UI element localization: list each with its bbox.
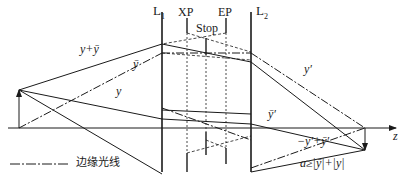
- ray-label-neg-yprime-plus-ybarprime: −y′+ȳ′: [297, 135, 329, 147]
- ray-label-y-prime: y′: [304, 63, 312, 75]
- lens-2-label-sub: 2: [264, 12, 268, 21]
- legend-label: 边缘光线: [76, 157, 120, 168]
- lens-2-label: L2: [256, 4, 268, 21]
- ray-label-y: y: [116, 85, 121, 97]
- lens-1-label-sub: 1: [161, 12, 165, 21]
- stop-label: Stop: [196, 22, 218, 34]
- axis-label-z: z: [393, 130, 398, 142]
- pupil-construction-ray: [187, 33, 251, 52]
- formula-label: a≥|ȳ|+|y|: [300, 157, 345, 169]
- lens-2-label-main: L: [256, 3, 264, 18]
- pupil-construction-ray: [187, 136, 251, 153]
- lens-1-label-main: L: [153, 3, 161, 18]
- ray-ybar: [19, 53, 162, 128]
- ray-label-ybar: ȳ: [133, 58, 138, 70]
- ray-label-y-plus-ybar: y+ȳ: [80, 43, 99, 55]
- ray-y-mid: [162, 119, 251, 124]
- exit-pupil-label: XP: [178, 6, 193, 18]
- lens-1-label: L1: [153, 4, 165, 21]
- ray-steep-mid: [162, 110, 251, 114]
- entrance-pupil-label: EP: [218, 6, 232, 18]
- ray-y: [19, 90, 162, 119]
- ray-label-ybar-prime: ȳ′: [268, 108, 276, 120]
